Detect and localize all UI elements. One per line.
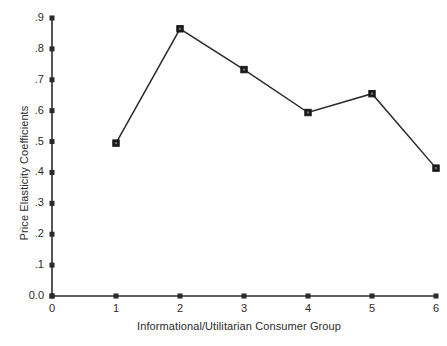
- y-axis-tick: [50, 46, 55, 51]
- y-axis-tick-label: .5: [10, 136, 44, 147]
- x-axis-tick: [50, 294, 55, 299]
- y-axis-tick-label: .6: [10, 105, 44, 116]
- y-axis-tick: [50, 77, 55, 82]
- y-axis-tick: [50, 170, 55, 175]
- x-axis-tick-label: 3: [234, 303, 254, 314]
- price-elasticity-line-chart: Price Elasticity Coefficients 0.0.1.2.3.…: [0, 0, 447, 346]
- x-axis-tick: [114, 294, 119, 299]
- y-axis-tick-label: 0.0: [10, 290, 44, 301]
- y-axis-tick: [50, 108, 55, 113]
- y-axis-tick-label: .7: [10, 74, 44, 85]
- x-axis-tick: [434, 294, 439, 299]
- y-axis-tick: [50, 263, 55, 268]
- plot-area: [0, 0, 447, 346]
- data-point-marker-center: [371, 93, 373, 95]
- y-axis-tick-label: .8: [10, 43, 44, 54]
- data-point-marker-center: [435, 167, 437, 169]
- y-axis-tick-label: .3: [10, 197, 44, 208]
- x-axis-tick-label: 0: [42, 303, 62, 314]
- data-point-marker-center: [179, 28, 181, 30]
- x-axis-tick: [306, 294, 311, 299]
- y-axis-tick: [50, 232, 55, 237]
- x-axis-tick-label: 6: [426, 303, 446, 314]
- y-axis-tick: [50, 16, 55, 21]
- data-point-marker-center: [243, 68, 245, 70]
- x-axis-tick: [370, 294, 375, 299]
- y-axis-tick-label: .9: [10, 12, 44, 23]
- data-series-line: [116, 29, 436, 168]
- data-point-marker-center: [307, 111, 309, 113]
- y-axis-tick: [50, 139, 55, 144]
- data-point-marker-center: [115, 142, 117, 144]
- x-axis-tick: [242, 294, 247, 299]
- x-axis-tick: [178, 294, 183, 299]
- x-axis-tick-label: 1: [106, 303, 126, 314]
- y-axis-tick: [50, 201, 55, 206]
- x-axis-title: Informational/Utilitarian Consumer Group: [52, 320, 426, 332]
- x-axis-tick-label: 4: [298, 303, 318, 314]
- x-axis-tick-label: 5: [362, 303, 382, 314]
- y-axis-tick-label: .4: [10, 166, 44, 177]
- y-axis-tick-label: .2: [10, 228, 44, 239]
- x-axis-tick-label: 2: [170, 303, 190, 314]
- y-axis-tick-label: .1: [10, 259, 44, 270]
